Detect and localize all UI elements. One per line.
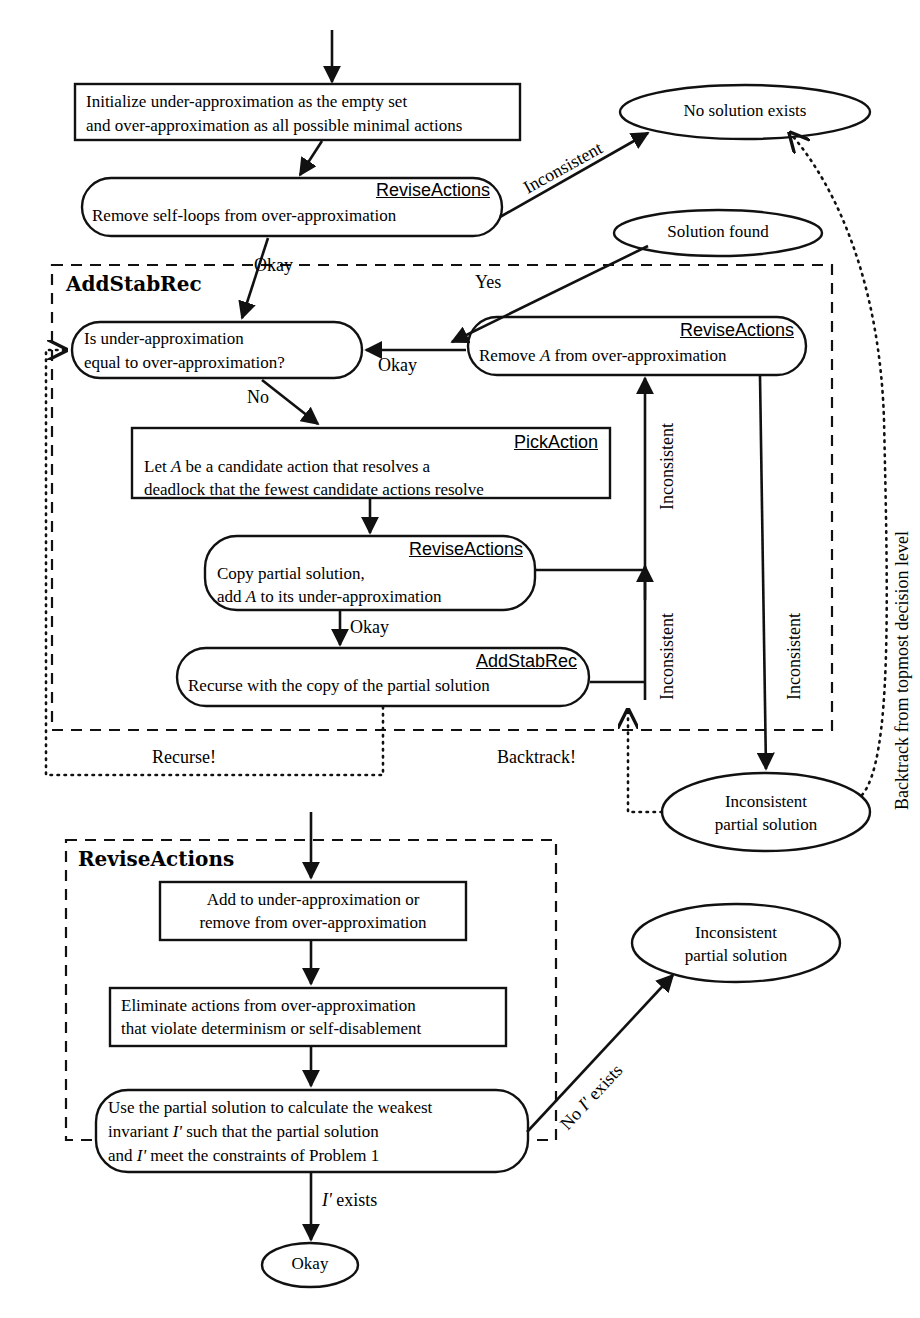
- node-okay-terminal-shape: [262, 1243, 358, 1287]
- node-eliminate-shape: [110, 988, 506, 1046]
- edge-removea-to-inconsistent-1: [760, 376, 766, 769]
- flowchart-diagram: Initialize under-approximation as the em…: [0, 0, 920, 1318]
- node-decision-shape: [72, 322, 362, 378]
- edge-decision-to-pickaction: [262, 380, 318, 424]
- edge-label-okay-recurse-text: Okay: [350, 617, 389, 637]
- node-initialize-shape: [75, 84, 520, 140]
- edge-label-inconsistent-v3: Inconsistent: [784, 613, 805, 700]
- edge-label-inconsistent-v1-text: Inconsistent: [657, 423, 677, 510]
- node-solution-found-shape: [614, 210, 822, 256]
- group-reviseactions-title-text: ReviseActions: [78, 847, 234, 871]
- edge-label-backtrack-bang-text: Backtrack!: [497, 747, 576, 767]
- edge-revise-to-no-solution: [500, 133, 648, 217]
- node-no-solution-shape: [620, 85, 870, 139]
- node-inconsistent-partial-2-shape: [632, 904, 840, 982]
- edge-label-i-exists: I' exists: [322, 1190, 377, 1211]
- group-addstabrec-title-text: AddStabRec: [66, 272, 202, 296]
- edge-label-no-text: No: [247, 387, 269, 407]
- node-pick-action-shape: [132, 428, 610, 498]
- group-addstabrec-title: AddStabRec: [66, 272, 202, 296]
- edge-label-no: No: [247, 387, 269, 408]
- edge-label-backtrack-bang: Backtrack!: [497, 747, 576, 768]
- edge-label-recurse-bang: Recurse!: [152, 747, 216, 768]
- var-i-prime-4: I': [322, 1190, 332, 1210]
- edge-label-inconsistent-v1: Inconsistent: [657, 423, 678, 510]
- group-reviseactions-title: ReviseActions: [78, 847, 234, 871]
- edge-label-backtrack-topmost: Backtrack from topmost decision level: [892, 531, 913, 810]
- edge-label-recurse-bang-text: Recurse!: [152, 747, 216, 767]
- edge-label-okay-return: Okay: [378, 355, 417, 376]
- flowchart-canvas: [0, 0, 920, 1318]
- edge-label-okay-recurse: Okay: [350, 617, 389, 638]
- edge-label-i-exists-b: exists: [332, 1190, 378, 1210]
- edge-label-inconsistent-v3-text: Inconsistent: [784, 613, 804, 700]
- edge-label-inconsistent-v2-text: Inconsistent: [657, 613, 677, 700]
- edge-initialize-to-revise: [300, 141, 322, 175]
- node-revise-copy-shape: [205, 536, 535, 610]
- edge-revise-to-decision: [242, 238, 268, 318]
- node-add-or-remove-shape: [160, 882, 466, 940]
- edge-label-okay-enter-text: Okay: [254, 255, 293, 275]
- edge-label-backtrack-topmost-text: Backtrack from topmost decision level: [892, 531, 912, 810]
- node-weakest-invariant-shape: [96, 1090, 528, 1172]
- edge-label-inconsistent-v2: Inconsistent: [657, 613, 678, 700]
- edge-backtrack-dotted: [628, 710, 662, 812]
- edge-label-okay-enter: Okay: [254, 255, 293, 276]
- node-inconsistent-partial-1-shape: [662, 773, 870, 851]
- edge-weakest-to-inconsistent-2: [527, 975, 673, 1132]
- node-revise-remove-a-shape: [468, 317, 806, 375]
- edge-label-yes-text: Yes: [475, 272, 501, 292]
- node-revise-selfloops-shape: [82, 178, 502, 236]
- edge-label-yes: Yes: [475, 272, 501, 293]
- edge-label-okay-return-text: Okay: [378, 355, 417, 375]
- node-recurse-shape: [177, 648, 589, 706]
